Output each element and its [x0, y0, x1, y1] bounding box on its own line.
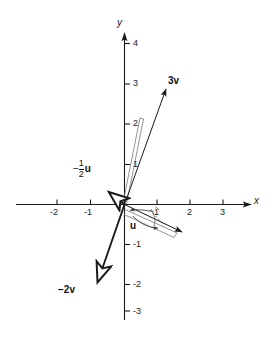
- y-axis: [125, 33, 131, 320]
- x-tick-label: -1: [84, 208, 92, 217]
- vector-label-neg-2v: −2v: [58, 285, 75, 295]
- vector-label-neg-half-u: − 1 2 u: [73, 159, 91, 180]
- x-tick-label: 1: [154, 208, 159, 217]
- neg-half-u-vector-letter: u: [84, 164, 91, 174]
- y-tick-label: -2: [133, 280, 141, 289]
- y-tick-label: 2: [133, 119, 138, 128]
- y-tick-label: 3: [133, 79, 138, 88]
- vector-3v: [125, 89, 167, 205]
- y-tick-label: -1: [133, 240, 141, 249]
- x-axis-label: x: [254, 196, 259, 206]
- x-tick-label: -2: [50, 208, 58, 217]
- y-axis-label: y: [117, 18, 122, 28]
- vector-neg-2v: [98, 205, 125, 282]
- vector-label-3v: 3v: [168, 76, 179, 86]
- y-tick-label: 4: [133, 39, 138, 48]
- x-tick-label: 3: [220, 208, 225, 217]
- figure-canvas: x y -2 -1 1 2 3 4 3 2 1 -1 -2 -3 3v −2v …: [0, 0, 277, 348]
- y-tick-label: -3: [133, 307, 141, 316]
- vector-neg-half-u: [110, 193, 125, 205]
- vector-diagram-svg: [0, 0, 277, 348]
- x-axis: [16, 200, 251, 205]
- vector-label-u: u: [130, 221, 136, 231]
- y-tick-label: 1: [133, 160, 138, 169]
- x-tick-label: 2: [187, 208, 192, 217]
